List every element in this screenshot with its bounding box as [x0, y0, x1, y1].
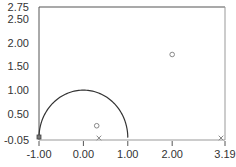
x-tick-label: -1.00 — [26, 148, 51, 160]
x-axis-ticks: -1.000.001.002.003.19 — [26, 141, 235, 160]
x-tick-label: 0.00 — [73, 148, 94, 160]
chart: -1.000.001.002.003.19 2.752.502.001.501.… — [0, 0, 236, 167]
plot-frame — [39, 7, 225, 140]
y-tick-label: 2.00 — [8, 37, 29, 49]
y-tick-label: -0.05 — [4, 134, 29, 146]
y-tick-label: 2.75 — [8, 1, 29, 13]
x-tick-label: 2.00 — [161, 148, 182, 160]
x-tick-label: 3.19 — [214, 148, 235, 160]
y-tick-label: 0.50 — [8, 108, 29, 120]
y-tick-label: 1.50 — [8, 60, 29, 72]
pole-circle-marker — [170, 52, 175, 57]
unit-circle-curve — [39, 90, 128, 138]
plot-markers — [37, 52, 223, 140]
pole-circle-marker — [94, 123, 99, 128]
origin-square-marker — [37, 135, 41, 139]
x-tick-label: 1.00 — [117, 148, 138, 160]
y-tick-label: 1.00 — [8, 84, 29, 96]
y-axis-ticks: 2.752.502.001.501.000.50-0.05 — [4, 1, 29, 146]
plot-curves — [39, 90, 128, 138]
y-tick-label: 2.50 — [8, 13, 29, 25]
